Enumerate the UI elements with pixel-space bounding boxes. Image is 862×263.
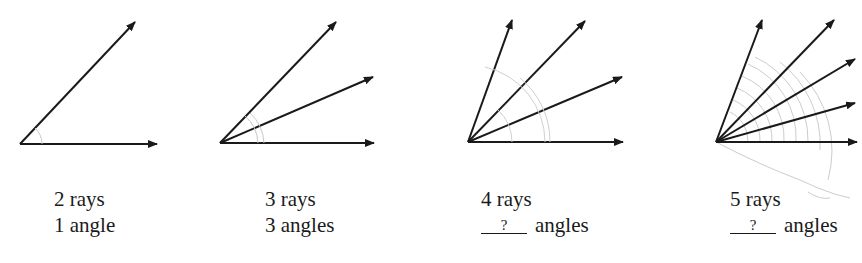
angles-word: angle xyxy=(70,213,115,237)
angles-word: angles xyxy=(281,213,335,237)
angle-arc xyxy=(35,128,42,144)
ray xyxy=(716,20,762,142)
figure-1-caption: 2 rays 1 angle xyxy=(54,186,115,238)
ray xyxy=(468,21,585,142)
figure-3-caption: 4 rays ?angles xyxy=(481,186,589,238)
ray xyxy=(468,77,622,142)
rays-count-label: 4 rays xyxy=(481,186,589,212)
angles-value: 3 xyxy=(265,213,276,237)
figure-2-caption: 3 rays 3 angles xyxy=(265,186,334,238)
figure-3-rays xyxy=(220,22,374,143)
rays-count-label: 2 rays xyxy=(54,186,115,212)
angles-word: angles xyxy=(535,213,589,237)
ray xyxy=(220,22,336,143)
ray xyxy=(20,22,135,144)
rays-count-label: 5 rays xyxy=(730,186,838,212)
answer-blank[interactable]: ? xyxy=(481,217,527,234)
figure-4-caption: 5 rays ?angles xyxy=(730,186,838,238)
rays-count-label: 3 rays xyxy=(265,186,334,212)
angle-arcs xyxy=(716,57,850,198)
figure-5-rays xyxy=(716,20,857,198)
angles-count-label: ?angles xyxy=(481,212,589,238)
ray xyxy=(716,103,855,142)
angles-word: angles xyxy=(784,213,838,237)
answer-blank[interactable]: ? xyxy=(730,217,776,234)
figure-2-rays xyxy=(20,22,157,144)
ray xyxy=(468,20,512,142)
ray xyxy=(220,77,373,143)
angles-value: 1 xyxy=(54,213,65,237)
angles-count-label: 3 angles xyxy=(265,212,334,238)
angles-count-label: 1 angle xyxy=(54,212,115,238)
angles-count-label: ?angles xyxy=(730,212,838,238)
figure-4-rays xyxy=(468,20,623,142)
